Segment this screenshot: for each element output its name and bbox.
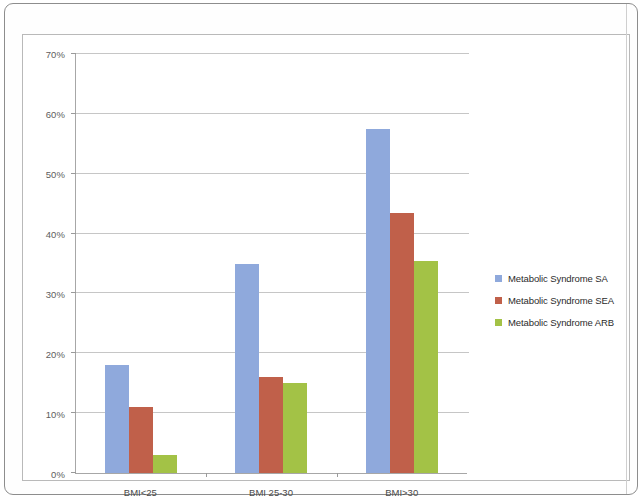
y-tick-label: 40% (46, 229, 65, 240)
bar[interactable] (414, 261, 438, 473)
legend-label: Metabolic Syndrome SEA (508, 295, 614, 306)
y-axis: 0%10%20%30%40%50%60%70% (23, 35, 69, 482)
legend-swatch-icon (495, 297, 502, 304)
chart-legend: Metabolic Syndrome SAMetabolic Syndrome … (495, 267, 643, 333)
bar[interactable] (105, 365, 129, 473)
y-tick-label: 0% (51, 469, 65, 480)
chart-container: 0%10%20%30%40%50%60%70% BMI<25BMI 25-30B… (22, 34, 630, 481)
x-tick-label: BMI<25 (75, 487, 206, 498)
legend-swatch-icon (495, 319, 502, 326)
x-tick-label: BMI>30 (336, 487, 467, 498)
bar[interactable] (390, 213, 414, 473)
bar[interactable] (235, 264, 259, 474)
bar[interactable] (153, 455, 177, 473)
y-tick-label: 30% (46, 289, 65, 300)
y-tick-label: 70% (46, 49, 65, 60)
y-tick-label: 20% (46, 349, 65, 360)
legend-item[interactable]: Metabolic Syndrome SEA (495, 289, 643, 311)
x-tick-mark (337, 473, 338, 477)
y-tick-label: 60% (46, 109, 65, 120)
legend-swatch-icon (495, 275, 502, 282)
y-tick-label: 50% (46, 169, 65, 180)
bar-group (76, 54, 206, 473)
x-tick-mark (206, 473, 207, 477)
bar-groups (76, 54, 467, 473)
x-tick-label: BMI 25-30 (206, 487, 337, 498)
legend-label: Metabolic Syndrome SA (508, 273, 608, 284)
bar-group (206, 54, 336, 473)
y-tick-label: 10% (46, 409, 65, 420)
bar[interactable] (129, 407, 153, 473)
plot-area (75, 54, 467, 474)
scanned-page-frame: 0%10%20%30%40%50%60%70% BMI<25BMI 25-30B… (4, 3, 638, 495)
legend-item[interactable]: Metabolic Syndrome SA (495, 267, 643, 289)
bar[interactable] (283, 383, 307, 473)
bar[interactable] (366, 129, 390, 473)
plot-wrapper: 0%10%20%30%40%50%60%70% BMI<25BMI 25-30B… (23, 35, 493, 482)
bar-group (337, 54, 467, 473)
bar[interactable] (259, 377, 283, 473)
legend-label: Metabolic Syndrome ARB (508, 317, 614, 328)
legend-item[interactable]: Metabolic Syndrome ARB (495, 311, 643, 333)
x-axis-labels: BMI<25BMI 25-30BMI>30 (75, 487, 467, 498)
